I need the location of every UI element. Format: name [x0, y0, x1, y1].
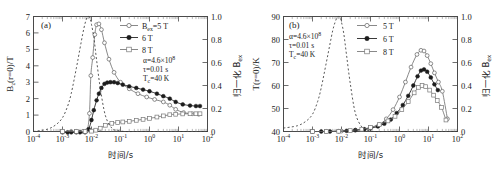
data-point-marker [391, 108, 395, 112]
chart-panel-b: 10-4 10-3 10-2 10-1 100 101 102 时间/s 40 [247, 0, 495, 174]
data-point-marker [400, 108, 404, 112]
data-point-marker [109, 80, 113, 84]
y-right-tick-b-4: 0.8 [461, 35, 472, 45]
y-right-tick-b-2: 0.4 [461, 81, 472, 91]
x-tick-b-5: 10 [423, 134, 432, 144]
data-point-marker [161, 114, 165, 118]
data-point-marker [425, 54, 429, 58]
data-point-marker [168, 113, 172, 117]
data-point-marker [440, 89, 444, 93]
x-axis-title-a: 时间/s [108, 150, 134, 160]
y-right-title-sub-a: ex [237, 54, 243, 61]
data-point-marker [107, 57, 111, 61]
x-tick-exp-a-4: 0 [152, 133, 155, 139]
data-point-marker [69, 130, 73, 134]
legend-a: Bex=5 T 6 T 8 T [120, 22, 168, 55]
data-point-marker [90, 129, 94, 133]
y-right-tick-b-5: 1.0 [461, 12, 472, 22]
svg-text:10-3: 10-3 [56, 133, 69, 144]
y-right-tick-a-0: 0 [211, 127, 215, 137]
y-right-tick-labels-a: 0 0.2 0.4 0.6 0.8 1.0 [211, 12, 222, 137]
svg-text:10-2: 10-2 [335, 133, 348, 144]
data-point-marker [116, 81, 120, 85]
data-point-marker [194, 112, 198, 116]
data-point-marker [194, 104, 198, 108]
data-point-marker [74, 130, 78, 134]
panel-a-svg: 10-4 10-3 10-2 10-1 100 101 102 时间/s [0, 0, 248, 174]
y-left-axis-title-b: T(r=0)/K [251, 57, 261, 91]
data-point-marker [78, 130, 82, 134]
x-tick-labels-a: 10-4 10-3 10-2 10-1 100 101 102 [27, 133, 213, 144]
y-left-ticks-a [34, 17, 39, 132]
y-tick-a-3: 3 [26, 77, 30, 87]
data-point-marker [348, 129, 352, 133]
x-tick-labels-b: 10-4 10-3 10-2 10-1 100 101 102 [277, 133, 463, 144]
data-point-marker [168, 97, 172, 101]
annot-alpha-b: α=4.6×108 [289, 31, 321, 41]
y-left-tick-labels-a: 0 1 2 3 4 5 6 7 [26, 12, 31, 137]
legend-label-a-0: Bex=5 T [142, 22, 168, 32]
series-path-a [63, 23, 199, 132]
figure-root: 10-4 10-3 10-2 10-1 100 101 102 时间/s [0, 0, 495, 174]
legend-b: 5 T 6 T 8 T [357, 22, 394, 57]
data-point-marker [88, 112, 92, 116]
y-tick-a-2: 2 [26, 94, 30, 104]
data-point-marker [103, 41, 107, 45]
data-point-marker [148, 116, 152, 120]
x-tick-b-2: 10 [335, 134, 344, 144]
data-curves-a [34, 16, 208, 134]
data-point-marker [112, 80, 116, 84]
x-tick-a-1: 10 [56, 134, 65, 144]
data-point-marker [155, 92, 159, 96]
annot-alpha-a: α=4.6×108 [143, 55, 175, 65]
data-point-marker [428, 88, 432, 92]
annot-tau-b: τ=0.01 s [289, 41, 314, 50]
y-right-tick-a-2: 0.4 [211, 81, 222, 91]
y-right-ticks-a [203, 17, 208, 132]
data-point-marker [437, 80, 441, 84]
y-right-axis-title-b: 归一化 Bex [481, 54, 492, 97]
data-point-marker [324, 130, 328, 134]
data-point-marker [415, 53, 419, 57]
legend-label-b-0: 5 T [383, 22, 394, 31]
y-right-tick-labels-b: 0 0.2 0.4 0.6 0.8 1.0 [461, 12, 472, 137]
data-point-marker [134, 86, 138, 90]
data-point-marker [95, 98, 99, 102]
data-point-marker [92, 108, 96, 112]
data-point-marker [429, 62, 433, 66]
data-point-marker [174, 107, 178, 111]
data-point-marker [91, 56, 95, 60]
data-point-marker [398, 95, 402, 99]
data-point-marker [155, 115, 159, 119]
series-path-b [313, 50, 448, 131]
svg-text:100: 100 [144, 133, 156, 144]
y-right-tick-a-5: 1.0 [211, 12, 222, 22]
data-point-marker [153, 98, 157, 102]
data-point-marker [411, 84, 415, 88]
y-right-tick-a-4: 0.8 [211, 35, 222, 45]
data-point-marker [110, 121, 114, 125]
data-point-marker [174, 112, 178, 116]
x-tick-a-2: 10 [85, 134, 94, 144]
annotations-b: α=4.6×108 τ=0.01 s Tc=40 K [289, 31, 321, 60]
y-tick-a-5: 5 [26, 44, 30, 54]
data-point-marker [444, 118, 448, 122]
x-tick-exp-a-0: -4 [35, 133, 40, 139]
data-point-marker [121, 120, 125, 124]
data-point-marker [145, 95, 149, 99]
data-point-marker [311, 130, 315, 134]
data-point-marker [417, 85, 421, 89]
y-left-ticks-b [284, 17, 289, 132]
x-tick-b-3: 10 [364, 134, 373, 144]
data-point-marker [188, 104, 192, 108]
data-point-marker [98, 126, 102, 130]
svg-text:100: 100 [394, 133, 406, 144]
data-point-marker [369, 125, 373, 129]
data-point-marker [127, 119, 131, 123]
legend-label-a-2: 8 T [142, 46, 153, 55]
x-tick-exp-b-3: -1 [372, 133, 377, 139]
data-point-marker [168, 103, 172, 107]
svg-text:10-1: 10-1 [114, 133, 127, 144]
data-point-marker [188, 112, 192, 116]
annot-tc-b: Tc=40 K [289, 50, 316, 60]
